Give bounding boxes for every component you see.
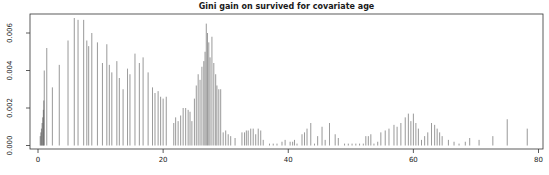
chart-title: Gini gain on survived for covariate age: [199, 2, 375, 11]
x-tick-label: 60: [409, 156, 418, 164]
x-tick-label: 80: [534, 156, 543, 164]
spike-series: [40, 18, 527, 146]
y-tick-label: 0.000: [6, 135, 14, 155]
gini-spike-chart: Gini gain on survived for covariate age …: [0, 0, 549, 175]
x-tick-label: 0: [36, 156, 40, 164]
gini-gain-figure: Gini gain on survived for covariate age …: [0, 0, 549, 175]
x-tick-label: 20: [159, 156, 168, 164]
y-tick-label: 0.002: [6, 98, 14, 118]
x-tick-label: 40: [284, 156, 293, 164]
y-tick-label: 0.006: [6, 22, 14, 43]
y-tick-label: 0.004: [6, 60, 14, 81]
